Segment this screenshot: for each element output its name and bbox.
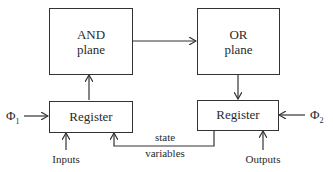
- and-plane-label: AND plane: [49, 27, 133, 57]
- or-plane-label: OR plane: [197, 27, 280, 57]
- and-plane-line2: plane: [49, 42, 133, 57]
- phi2-subscript: 2: [320, 116, 324, 125]
- variables-label: variables: [140, 147, 190, 160]
- right-register-label: Register: [197, 107, 279, 122]
- or-plane-line1: OR: [197, 27, 280, 42]
- phi1-label: Φ1: [6, 108, 20, 129]
- phi2-label: Φ2: [310, 107, 324, 128]
- or-plane-line2: plane: [197, 42, 280, 57]
- phi2-symbol: Φ: [310, 107, 320, 122]
- and-plane-line1: AND: [49, 27, 133, 42]
- phi1-symbol: Φ: [6, 108, 16, 123]
- state-label: state: [145, 131, 185, 144]
- left-register-label: Register: [49, 109, 133, 124]
- outputs-label: Outputs: [240, 153, 286, 166]
- phi1-subscript: 1: [16, 117, 20, 126]
- inputs-label: Inputs: [46, 153, 86, 166]
